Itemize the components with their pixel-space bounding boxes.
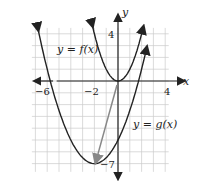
axes bbox=[37, 17, 182, 176]
tick-label-4-y: 4 bbox=[108, 29, 114, 40]
y-axis-label: y bbox=[121, 6, 129, 19]
g-label: y = g(x) bbox=[132, 118, 177, 131]
grid bbox=[32, 28, 169, 172]
tick-label-neg6: −6 bbox=[35, 86, 50, 97]
tick-label-neg2: −2 bbox=[84, 86, 99, 97]
f-label: y = f(x) bbox=[56, 43, 98, 56]
x-axis-label: x bbox=[183, 75, 190, 88]
tick-label-neg7: −7 bbox=[100, 159, 115, 170]
tick-label-4-x: 4 bbox=[164, 86, 170, 97]
graph: y x y = f(x) y = g(x) −6 −2 4 4 −7 bbox=[0, 0, 198, 188]
